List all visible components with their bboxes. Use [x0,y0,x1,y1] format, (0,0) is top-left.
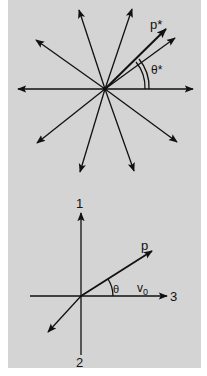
theta-label: θ [113,284,119,295]
vector-arrow [80,89,105,172]
vector-diagrams [0,0,207,376]
v-subscript: 0 [143,287,148,297]
p-star-label: p* [150,18,162,31]
p-star-vector [105,29,166,89]
vector-arrow [36,40,105,89]
vector-arrow [37,89,105,143]
axis-1-label: 1 [76,197,83,210]
axis-2-projection [48,296,81,332]
axis-3-label: 3 [170,290,177,303]
theta-star-label: θ* [151,64,162,76]
v0-label: v0 [137,282,148,297]
p-label: p [141,239,148,252]
vector-arrow [105,38,175,89]
top-star-diagram [18,9,193,172]
axis-2-label: 2 [76,356,83,369]
center-dot [103,87,107,91]
vector-arrow [105,89,177,142]
vector-arrow [79,10,105,89]
vector-arrow [105,89,134,171]
